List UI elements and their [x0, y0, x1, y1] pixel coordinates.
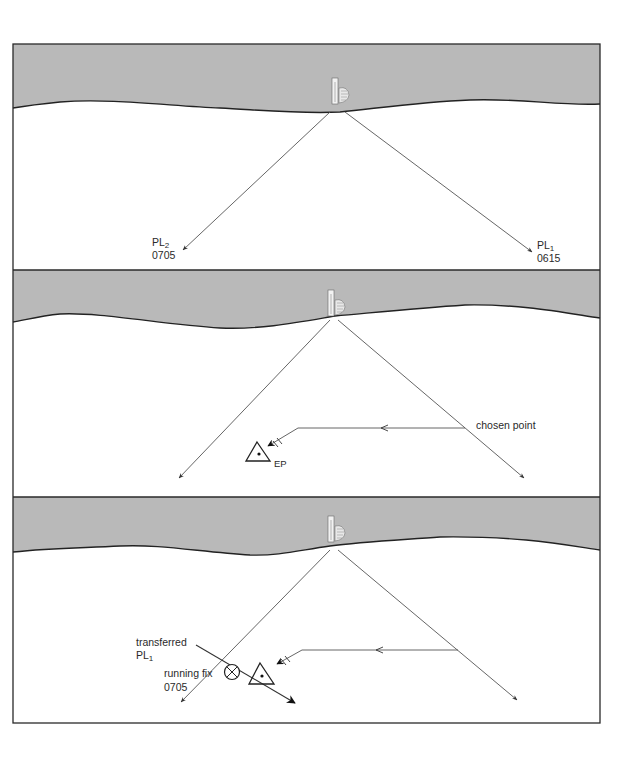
label-transferred-pl1-text: PL — [136, 649, 149, 661]
bearing-line-pl1 — [338, 550, 517, 700]
triangle-ep-icon — [246, 442, 270, 461]
label-pl2: PL2 — [152, 236, 169, 248]
label-pl2-time: 0705 — [152, 249, 175, 261]
triangle-ep-icon — [249, 663, 274, 684]
label-pl1: PL1 — [537, 239, 554, 251]
bearing-line-pl2 — [181, 550, 330, 702]
panel-1 — [13, 44, 600, 270]
label-running-fix-time: 0705 — [164, 681, 187, 693]
circled-x-fix-icon — [225, 665, 240, 680]
land-mass — [13, 270, 600, 328]
label-pl1-text: PL — [537, 239, 550, 251]
label-pl2-text: PL — [152, 236, 165, 248]
label-pl1-time: 0615 — [537, 252, 560, 264]
panel-3 — [13, 497, 600, 703]
bearing-line-pl2 — [179, 320, 330, 478]
chosen-point-transfer-line — [268, 428, 465, 446]
label-chosen-point: chosen point — [476, 419, 536, 431]
bearing-line-pl1 — [338, 320, 524, 478]
label-transferred: transferred — [136, 636, 187, 648]
panel-2 — [13, 270, 600, 478]
label-running-fix: running fix — [164, 667, 212, 679]
label-ep: EP — [274, 458, 287, 470]
chosen-point-transfer-line — [277, 650, 458, 664]
running-fix-diagram — [0, 0, 632, 763]
label-transferred-pl1: PL1 — [136, 649, 153, 661]
label-transferred-pl1-subscript: 1 — [149, 654, 153, 663]
